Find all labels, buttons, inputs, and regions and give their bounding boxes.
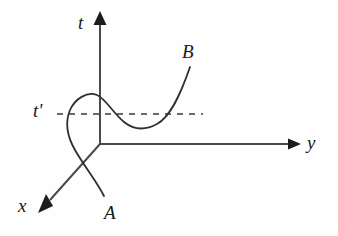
diagram-canvas <box>0 0 338 236</box>
y-axis-arrowhead-icon <box>288 139 301 150</box>
spacetime-diagram-figure: t t' x y A B <box>0 0 338 236</box>
time-axis-label: t <box>78 13 83 32</box>
time-axis-arrowhead-icon <box>94 11 107 25</box>
worldline-end-label-b: B <box>182 42 194 61</box>
t-prime-slice-label: t' <box>33 101 42 120</box>
x-axis-label: x <box>18 196 26 215</box>
y-axis-label: y <box>307 133 315 152</box>
worldline-start-label-a: A <box>104 203 116 222</box>
x-axis-arrowhead-icon <box>38 194 53 213</box>
x-axis-line <box>50 144 100 200</box>
worldline-path <box>67 67 190 196</box>
